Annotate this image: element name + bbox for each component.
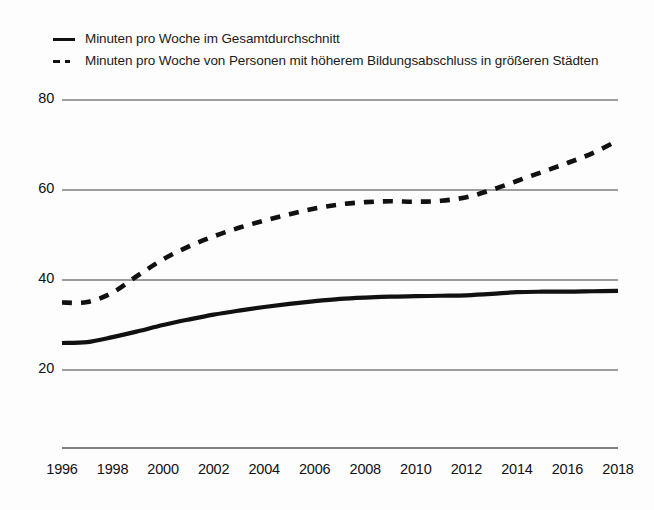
x-tick-label-2018: 2018 <box>594 461 642 477</box>
x-tick-label-2004: 2004 <box>240 461 288 477</box>
x-tick-label-2012: 2012 <box>442 461 490 477</box>
x-tick-label-1998: 1998 <box>89 461 137 477</box>
y-tick-label-80: 80 <box>14 90 54 106</box>
x-tick-label-2010: 2010 <box>392 461 440 477</box>
chart-figure: Minuten pro Woche im Gesamtdurchschnitt … <box>0 0 654 510</box>
x-tick-label-2008: 2008 <box>341 461 389 477</box>
x-tick-label-2016: 2016 <box>543 461 591 477</box>
chart-canvas <box>0 0 654 510</box>
series-line-2 <box>62 141 618 303</box>
x-tick-label-2002: 2002 <box>190 461 238 477</box>
x-tick-label-2000: 2000 <box>139 461 187 477</box>
x-tick-label-1996: 1996 <box>38 461 86 477</box>
data-series-group <box>62 141 618 344</box>
plot-area: 20406080 1996199820002002200420062008201… <box>0 0 654 510</box>
x-tick-label-2006: 2006 <box>291 461 339 477</box>
x-tick-label-2014: 2014 <box>493 461 541 477</box>
y-tick-label-60: 60 <box>14 180 54 196</box>
series-line-1 <box>62 291 618 343</box>
y-tick-label-40: 40 <box>14 270 54 286</box>
y-tick-label-20: 20 <box>14 360 54 376</box>
